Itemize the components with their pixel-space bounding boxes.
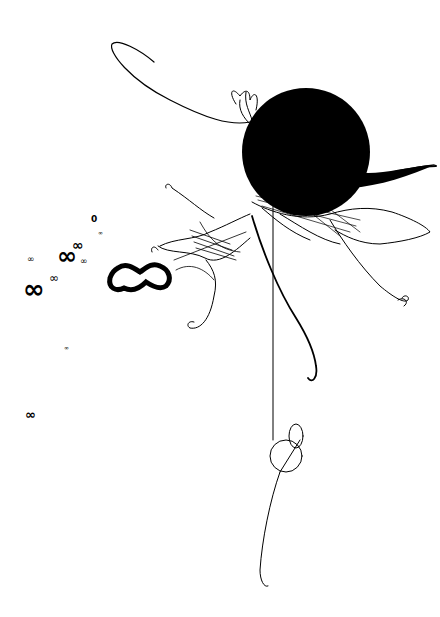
glyph-zero: 0: [91, 215, 97, 224]
curl-right: [398, 299, 406, 306]
artwork-canvas: 0 ∞ ∞ ∞ ∞ ∞ ∞ ∞ ∞ ∞: [0, 0, 440, 617]
left-filigree-dense: [174, 222, 246, 280]
knot-loop-small: [289, 424, 303, 448]
top-tendril: [112, 42, 250, 123]
glyph-infinity-xlarge: ∞: [23, 276, 45, 302]
glyph-infinity-bottom: ∞: [25, 408, 36, 421]
glyph-infinity-medium-low: ∞: [49, 272, 59, 284]
diagonal-stroke: [252, 216, 316, 380]
bottom-tendril: [260, 472, 280, 586]
glyph-infinity-small-left: ∞: [27, 255, 35, 264]
glyph-infinity-tiny: ∞: [98, 230, 103, 236]
black-sphere: [242, 88, 370, 216]
glyph-infinity-large: ∞: [57, 244, 77, 268]
ink-drawing: [0, 0, 440, 617]
glyph-infinity-tiny-low: ∞: [64, 345, 69, 351]
left-filigree: [151, 184, 250, 328]
big-wave-glyph: [110, 265, 170, 290]
glyph-infinity-small-mid: ∞: [80, 257, 88, 266]
